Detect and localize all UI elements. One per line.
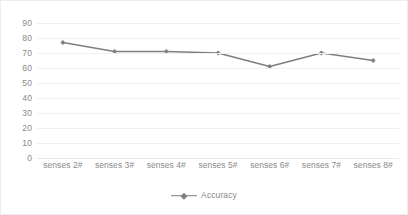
x-axis-label-3: senses 5#	[192, 161, 244, 170]
series-accuracy	[37, 23, 399, 158]
y-axis-tick-80: 80	[22, 34, 32, 43]
y-axis-tick-30: 30	[22, 109, 32, 118]
x-axis-label-2: senses 4#	[140, 161, 192, 170]
x-axis-label-6: senses 8#	[347, 161, 399, 170]
y-axis-tick-20: 20	[22, 124, 32, 133]
y-axis-tick-50: 50	[22, 79, 32, 88]
y-axis-tick-10: 10	[22, 139, 32, 148]
gridline-10	[37, 143, 399, 144]
chart-container: 9080706050403020100 senses 2#senses 3#se…	[0, 0, 408, 215]
gridline-90	[37, 23, 399, 24]
gridline-40	[37, 98, 399, 99]
x-axis-label-4: senses 6#	[244, 161, 296, 170]
x-axis-label-0: senses 2#	[37, 161, 89, 170]
y-axis-tick-0: 0	[27, 154, 32, 163]
x-axis-label-1: senses 3#	[89, 161, 141, 170]
x-axis-label-5: senses 7#	[296, 161, 348, 170]
y-axis-tick-40: 40	[22, 94, 32, 103]
gridline-50	[37, 83, 399, 84]
legend-label-accuracy: Accuracy	[201, 191, 237, 200]
gridline-60	[37, 68, 399, 69]
chart-legend: Accuracy	[1, 191, 407, 200]
plot-area: 9080706050403020100	[37, 23, 399, 158]
data-point-0	[60, 40, 65, 45]
legend-marker-accuracy	[171, 191, 197, 200]
gridline-80	[37, 38, 399, 39]
gridline-30	[37, 113, 399, 114]
y-axis-tick-70: 70	[22, 49, 32, 58]
gridline-0	[37, 158, 399, 159]
data-point-6	[371, 58, 376, 63]
gridline-70	[37, 53, 399, 54]
y-axis-tick-60: 60	[22, 64, 32, 73]
gridline-20	[37, 128, 399, 129]
y-axis-tick-90: 90	[22, 19, 32, 28]
category-axis: senses 2#senses 3#senses 4#senses 5#sens…	[37, 161, 399, 170]
